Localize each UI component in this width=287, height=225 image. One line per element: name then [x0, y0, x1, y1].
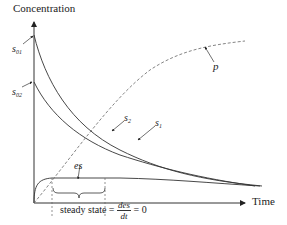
s2-curve: [34, 82, 255, 186]
steady-state-brace: [53, 188, 105, 198]
s2-pointer: [112, 121, 124, 131]
s1-label: s1: [155, 117, 162, 129]
s1-pointer: [138, 126, 155, 140]
steady-state-equation: steady state = des dt = 0: [60, 200, 147, 221]
fraction-denominator: dt: [117, 211, 131, 221]
s02-label: s02: [12, 86, 22, 98]
s01-pointer: [23, 36, 33, 44]
s01-sub: 01: [16, 49, 22, 55]
s2-label: s2: [124, 112, 131, 124]
y-axis-label: Concentration: [13, 2, 75, 14]
derivative-fraction: des dt: [117, 200, 131, 221]
steady-state-prefix: steady state =: [60, 204, 115, 215]
es-label: es: [74, 160, 82, 171]
s02-sub: 02: [16, 92, 22, 98]
s2-sub: 2: [128, 118, 131, 124]
fraction-numerator: des: [117, 200, 131, 211]
s02-pointer: [22, 82, 32, 87]
s01-label: s01: [12, 43, 22, 55]
p-label: p: [213, 60, 219, 72]
diagram-canvas: [0, 0, 287, 225]
s1-sub: 1: [159, 123, 162, 129]
steady-state-suffix: = 0: [134, 204, 147, 215]
x-axis-label: Time: [252, 195, 275, 207]
